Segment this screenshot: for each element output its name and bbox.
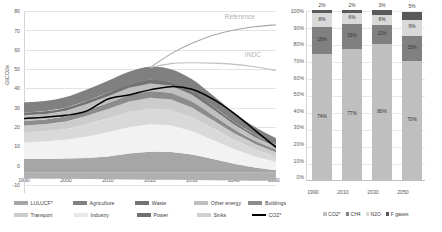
y-tick-label: 40% <box>284 108 304 114</box>
legend-label: N2O <box>371 211 381 217</box>
emissions-pathway-chart: GtCO2e 80 70 60 50 40 30 20 10 0 -10 199… <box>0 0 288 232</box>
legend-label: Transport <box>31 212 53 218</box>
bar-column-2030[interactable]: 80% 11% 6% 3% <box>372 10 392 180</box>
y-tick-label: 50 <box>2 66 20 72</box>
y-tick-label: 80 <box>2 8 20 14</box>
legend-label: Power <box>154 212 169 218</box>
legend-item-lulucf[interactable]: LULUCF* <box>14 200 73 206</box>
figure-root: GtCO2e 80 70 60 50 40 30 20 10 0 -10 199… <box>0 0 442 232</box>
y-tick-label: 80% <box>284 41 304 47</box>
bar-segment-n2o[interactable]: 6% <box>342 13 362 23</box>
bar-segment-label: 9% <box>409 25 416 30</box>
bar-segment-n2o[interactable]: 9% <box>402 20 422 35</box>
legend-swatch-icon <box>346 212 349 215</box>
legend-item-agriculture[interactable]: Agriculture <box>73 200 135 206</box>
legend-item-buildings[interactable]: Buildings <box>248 200 286 206</box>
bar-segment-co2[interactable]: 77% <box>342 49 362 180</box>
bar-segment-co2[interactable]: 80% <box>372 44 392 180</box>
y-tick-label: 40 <box>2 85 20 91</box>
legend-label: LULUCF* <box>31 200 53 206</box>
legend-swatch-icon <box>137 213 151 216</box>
bar-segment-label: 15% <box>407 46 417 51</box>
y-tick-label: 50% <box>284 91 304 97</box>
legend-swatch-icon <box>366 212 369 215</box>
y-tick-label: 20 <box>2 124 20 130</box>
bar-segment-ch4[interactable]: 11% <box>372 25 392 44</box>
bar-segment-fgases[interactable]: 5% <box>402 12 422 21</box>
y-tick-label: 30% <box>284 124 304 130</box>
plot-area <box>24 11 276 176</box>
bar-segment-label: 80% <box>377 110 387 115</box>
legend-label: Agriculture <box>90 200 115 206</box>
legend-item-waste[interactable]: Waste <box>135 200 194 206</box>
bar-segment-fgases[interactable]: 3% <box>372 10 392 15</box>
y-tick-label: 0 <box>2 163 20 169</box>
area-stack-svg <box>24 11 276 193</box>
legend-swatch-icon <box>194 201 208 204</box>
legend-label: Buildings <box>265 200 286 206</box>
legend-label: F gases <box>391 211 409 217</box>
legend-swatch-icon <box>74 213 88 216</box>
y-tick-label: 10 <box>2 143 20 149</box>
bar-segment-ch4[interactable]: 16% <box>312 27 332 54</box>
bar-segment-ch4[interactable]: 15% <box>342 24 362 50</box>
legend-item-sinks[interactable]: Sinks <box>197 212 252 218</box>
legend-swatch-icon <box>14 201 28 204</box>
legend-item-transport[interactable]: Transport <box>14 212 74 218</box>
y-tick-label: 10% <box>284 158 304 164</box>
legend-swatch-icon <box>73 201 87 204</box>
legend-item-co2[interactable]: CO2* <box>323 211 340 217</box>
legend-label: Waste <box>152 200 167 206</box>
legend-swatch-icon <box>14 213 28 216</box>
bar-segment-co2[interactable]: 70% <box>402 61 422 180</box>
bar-segment-label: 6% <box>349 16 356 21</box>
plot-area: 74% 16% 8% 2% 77% 15% 6% 2% <box>306 11 424 181</box>
bar-chart-legend: CO2* CH4 N2O F gases <box>306 211 426 217</box>
legend-item-other-energy[interactable]: Other energy <box>194 200 248 206</box>
legend-item-power[interactable]: Power <box>137 212 197 218</box>
bar-segment-fgases[interactable]: 2% <box>312 10 332 13</box>
legend-label: Sinks <box>214 212 227 218</box>
bar-segment-n2o[interactable]: 6% <box>372 15 392 25</box>
bar-segment-label: 8% <box>319 18 326 23</box>
bar-column-2010[interactable]: 77% 15% 6% 2% <box>342 10 362 180</box>
legend-label: Industry <box>91 212 109 218</box>
y-tick-label: 70% <box>284 58 304 64</box>
gas-composition-chart: 100% 90% 80% 70% 60% 50% 40% 30% 20% 10%… <box>288 0 442 232</box>
bar-segment-label: 16% <box>317 38 327 43</box>
area-band-sinks <box>24 173 276 181</box>
bar-segment-ch4[interactable]: 15% <box>402 36 422 62</box>
bar-segment-fgases[interactable]: 2% <box>342 10 362 13</box>
bar-segment-label: 74% <box>317 115 327 120</box>
bar-segment-label: 3% <box>379 4 386 9</box>
bar-segment-co2[interactable]: 74% <box>312 54 332 180</box>
x-category-label: 2010 <box>329 189 357 195</box>
legend-row: LULUCF* Agriculture Waste Other energy B… <box>14 197 286 209</box>
bar-segment-label: 2% <box>319 4 326 9</box>
legend-label: CO2* <box>269 212 282 218</box>
bar-segment-label: 11% <box>377 32 386 37</box>
legend-item-ch4[interactable]: CH4 <box>346 211 361 217</box>
bar-column-2050[interactable]: 70% 15% 9% 5% <box>402 10 422 180</box>
legend-swatch-icon <box>197 213 211 216</box>
legend-item-industry[interactable]: Industry <box>74 212 137 218</box>
bar-segment-label: 2% <box>349 4 356 9</box>
legend-swatch-icon <box>386 212 389 215</box>
legend-item-fgases[interactable]: F gases <box>386 211 409 217</box>
legend-label: CH4 <box>351 211 361 217</box>
bar-segment-n2o[interactable]: 8% <box>312 13 332 27</box>
bar-column-1990[interactable]: 74% 16% 8% 2% <box>312 10 332 180</box>
legend-row: Transport Industry Power Sinks CO2* <box>14 209 286 221</box>
y-tick-label: 60% <box>284 75 304 81</box>
y-tick-label: 60 <box>2 47 20 53</box>
y-tick-label: 90% <box>284 25 304 31</box>
legend-item-n2o[interactable]: N2O <box>366 211 381 217</box>
x-axis-line <box>307 180 425 181</box>
bar-segment-label: 15% <box>347 34 357 39</box>
legend-item-co2[interactable]: CO2* <box>252 212 281 218</box>
legend-line-icon <box>252 214 266 216</box>
y-tick-label: 20% <box>284 141 304 147</box>
bar-segment-label: 5% <box>409 5 416 10</box>
y-tick-label: 70 <box>2 28 20 34</box>
x-category-label: 2050 <box>389 189 417 195</box>
